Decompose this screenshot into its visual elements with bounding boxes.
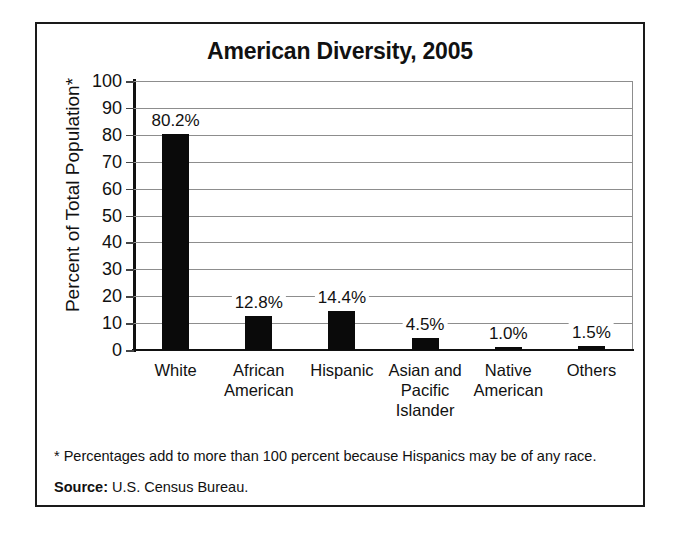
source-line: Source: U.S. Census Bureau. xyxy=(54,479,248,495)
x-axis-category-label-line: African xyxy=(224,360,294,380)
y-tick-label: 20 xyxy=(102,286,122,307)
y-tick-mark xyxy=(126,242,134,244)
x-axis-category-label: NativeAmerican xyxy=(473,360,543,400)
bar xyxy=(245,316,272,350)
y-tick-label: 80 xyxy=(102,124,122,145)
bar-value-label: 1.0% xyxy=(486,324,531,344)
bar-value-label: 14.4% xyxy=(315,288,369,308)
plot-area: 1009080706050403020100 80.2%12.8%14.4%4.… xyxy=(134,81,633,350)
x-axis-category-label-line: Hispanic xyxy=(310,360,373,380)
x-axis-category-label-line: Others xyxy=(567,360,617,380)
source-label: Source: xyxy=(54,479,108,495)
y-tick-mark xyxy=(126,350,134,352)
bar-value-label: 1.5% xyxy=(569,323,614,343)
bar-value-label: 80.2% xyxy=(148,111,202,131)
x-axis-category-label: Asian andPacificIslander xyxy=(388,360,461,420)
x-axis-category-label-line: Islander xyxy=(388,400,461,420)
x-axis-category-label-line: White xyxy=(154,360,196,380)
gridline xyxy=(134,296,633,297)
y-tick-mark xyxy=(126,323,134,325)
y-tick-mark xyxy=(126,162,134,164)
gridline xyxy=(134,108,633,109)
gridline xyxy=(134,242,633,243)
source-value: U.S. Census Bureau. xyxy=(112,479,248,495)
y-tick-label: 0 xyxy=(112,340,122,361)
footnote-text: * Percentages add to more than 100 perce… xyxy=(54,448,596,464)
y-tick-label: 100 xyxy=(92,71,122,92)
gridline xyxy=(134,162,633,163)
gridline xyxy=(134,216,633,217)
bar-value-label: 12.8% xyxy=(232,293,286,313)
y-tick-mark xyxy=(126,135,134,137)
y-tick-label: 10 xyxy=(102,313,122,334)
x-axis-category-label: AfricanAmerican xyxy=(224,360,294,400)
x-axis-category-label-line: Native xyxy=(473,360,543,380)
y-tick-label: 40 xyxy=(102,232,122,253)
x-axis-category-label-line: Asian and xyxy=(388,360,461,380)
y-tick-mark xyxy=(126,108,134,110)
plot-wrapper: Percent of Total Population* 10090807060… xyxy=(37,24,643,505)
bar-value-label: 4.5% xyxy=(403,315,448,335)
y-tick-mark xyxy=(126,216,134,218)
y-tick-label: 50 xyxy=(102,205,122,226)
y-tick-mark xyxy=(126,81,134,83)
x-axis-category-label: Others xyxy=(567,360,617,380)
chart-frame: American Diversity, 2005 Percent of Tota… xyxy=(35,22,645,507)
y-tick-label: 90 xyxy=(102,97,122,118)
x-axis-category-label: Hispanic xyxy=(310,360,373,380)
y-tick-mark xyxy=(126,269,134,271)
x-axis-line xyxy=(132,349,634,352)
gridline xyxy=(134,81,633,82)
x-axis-category-label: White xyxy=(154,360,196,380)
bar xyxy=(162,134,189,350)
gridline xyxy=(134,189,633,190)
y-tick-mark xyxy=(126,189,134,191)
x-axis-category-label-line: Pacific xyxy=(388,380,461,400)
y-tick-label: 60 xyxy=(102,178,122,199)
bar xyxy=(495,347,522,350)
gridline xyxy=(134,269,633,270)
y-axis-title: Percent of Total Population* xyxy=(62,55,84,335)
gridline xyxy=(134,135,633,136)
y-tick-label: 70 xyxy=(102,151,122,172)
x-axis-category-label-line: American xyxy=(224,380,294,400)
y-tick-mark xyxy=(126,296,134,298)
bar xyxy=(328,311,355,350)
bar xyxy=(412,338,439,350)
y-tick-label: 30 xyxy=(102,259,122,280)
x-axis-category-label-line: American xyxy=(473,380,543,400)
gridline xyxy=(134,323,633,324)
bar xyxy=(578,346,605,350)
